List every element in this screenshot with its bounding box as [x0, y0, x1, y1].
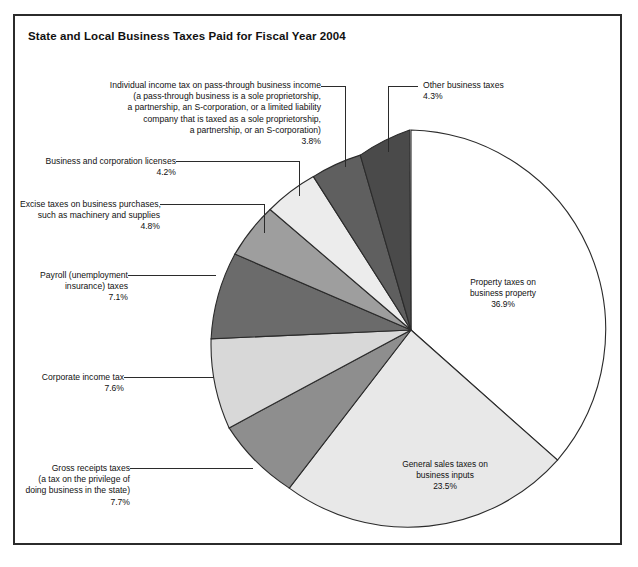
- label-individual-income-tax: Individual income tax on pass-through bu…: [46, 80, 321, 147]
- chart-figure: State and Local Business Taxes Paid for …: [0, 0, 638, 567]
- label-payroll-taxes: Payroll (unemployment insurance) taxes 7…: [18, 270, 128, 304]
- label-business-corporation-licenses: Business and corporation licenses 4.2%: [26, 156, 176, 178]
- label-gross-receipts-taxes: Gross receipts taxes (a tax on the privi…: [24, 463, 130, 508]
- label-property-taxes: Property taxes on business property 36.9…: [443, 277, 563, 310]
- leader-line-individual-income: [321, 86, 345, 167]
- label-excise-taxes: Excise taxes on business purchases, such…: [20, 199, 160, 233]
- label-general-sales-taxes: General sales taxes on business inputs 2…: [380, 459, 510, 492]
- leader-line-business-licenses: [176, 161, 299, 196]
- leader-line-excise: [160, 204, 264, 233]
- label-corporate-income-tax: Corporate income tax 7.6%: [24, 372, 124, 394]
- label-other-business-taxes: Other business taxes 4.3%: [423, 80, 583, 102]
